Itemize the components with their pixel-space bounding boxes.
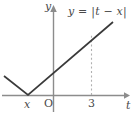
three-tick-label: 3 — [88, 98, 95, 109]
origin-label: O — [44, 98, 53, 109]
t-axis-label: t — [126, 100, 130, 111]
y-axis-label: y — [45, 1, 51, 12]
absolute-value-curve — [4, 22, 113, 95]
t-axis — [2, 92, 130, 99]
t-axis-arrowhead — [124, 92, 130, 99]
equation-label: y = |t − x| — [68, 6, 127, 17]
graph-figure: y t O x 3 y = |t − x| — [0, 0, 135, 119]
x-tick-label: x — [24, 99, 30, 110]
